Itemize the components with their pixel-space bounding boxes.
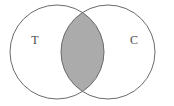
- left-set-label: T: [31, 33, 39, 47]
- venn-diagram-canvas: T C: [0, 0, 174, 106]
- right-set-label: C: [130, 33, 138, 47]
- venn-diagram-figure: T C: [0, 0, 174, 106]
